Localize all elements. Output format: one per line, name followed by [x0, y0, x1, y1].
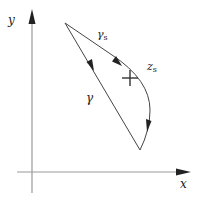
gamma-s-path: [65, 23, 150, 150]
gamma-s-label: γs: [97, 28, 108, 42]
saddle-point-cross-icon: [122, 70, 138, 86]
saddle-point-label: zs: [146, 60, 157, 74]
gamma-path: [65, 23, 140, 150]
gamma-label: γ: [86, 91, 94, 105]
x-axis-label: x: [180, 177, 187, 191]
saddle-point-label-sub: s: [153, 65, 157, 74]
y-axis-label: y: [7, 13, 15, 27]
contour-diagram: y x γs zs γ: [0, 0, 202, 203]
x-axis-arrow-icon: [176, 169, 191, 176]
y-axis-arrow-icon: [29, 9, 36, 24]
gamma-s-arrow-lower-icon: [146, 119, 152, 132]
gamma-s-label-sub: s: [104, 33, 108, 42]
